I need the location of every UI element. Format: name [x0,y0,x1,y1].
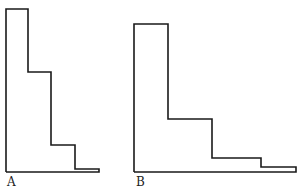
figure-label-a: A [7,176,16,187]
figure-label-b: B [136,176,145,187]
step-outline-a [6,9,99,172]
step-diagrams [0,0,301,187]
step-outline-b [134,24,296,172]
